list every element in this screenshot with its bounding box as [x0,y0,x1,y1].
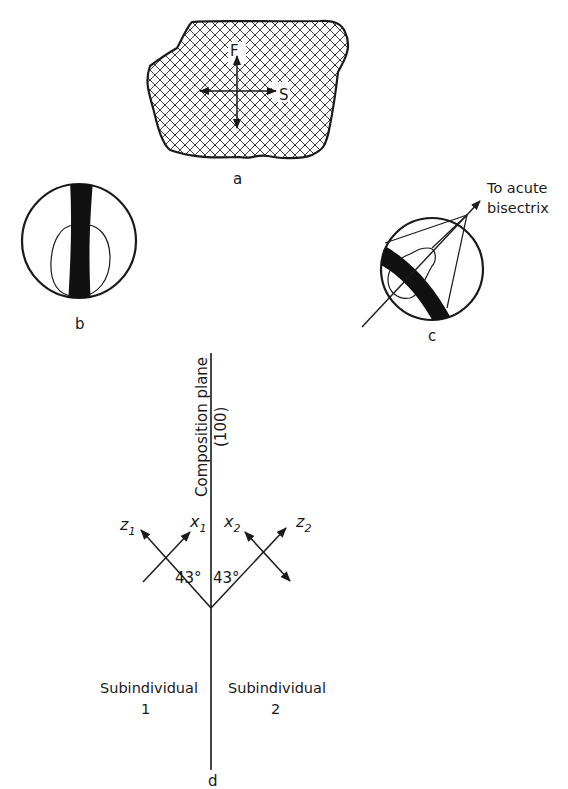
panel-c: To acute bisectrix c [360,180,549,345]
subindividual-1-number: 1 [141,701,150,717]
isogyre-dark-band [68,180,93,305]
subindividual-2-number: 2 [271,701,280,717]
panel-c-label: c [428,327,436,345]
x2-axis-arrow [245,532,290,581]
angle-left-label: 43° [175,569,202,587]
panel-a-label: a [233,170,242,188]
composition-plane-index: (100) [212,407,230,447]
twin-crystal-outline [75,342,387,770]
panel-b-label: b [75,315,85,333]
acute-bisectrix-label-line2: bisectrix [487,200,549,216]
ray-line [447,215,467,308]
composition-plane-label: Composition plane [193,357,211,497]
panel-d-label: d [208,772,218,789]
panel-b: b [22,180,136,333]
z1-label: z1 [119,515,135,538]
twinning-figure: F S a b To acute bisectrix c [0,0,568,789]
subindividual-2-label: Subindividual [228,680,326,696]
panel-d: Composition plane (100) z1 x1 x2 z2 43° … [75,342,387,789]
acute-bisectrix-label-line1: To acute [486,180,548,196]
angle-right-label: 43° [213,569,240,587]
fast-axis-label: F [230,42,239,60]
crystal-section-outline [147,21,348,158]
subindividual-1-label: Subindividual [100,680,198,696]
panel-a: F S a [147,21,348,188]
slow-axis-label: S [279,86,289,104]
